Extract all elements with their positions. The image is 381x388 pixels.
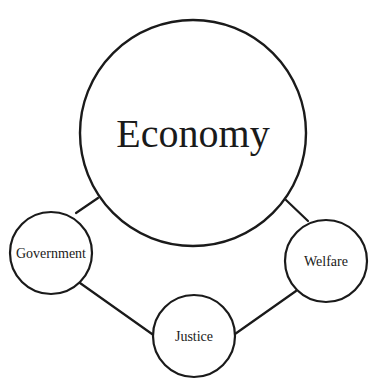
government-label: Government <box>16 246 86 261</box>
edge-economy-government <box>76 198 98 213</box>
edge-government-justice <box>80 283 152 334</box>
node-welfare: Welfare <box>285 220 367 302</box>
edges <box>76 198 308 334</box>
edge-economy-welfare <box>286 200 308 221</box>
edge-justice-welfare <box>235 291 296 334</box>
welfare-label: Welfare <box>304 254 348 269</box>
diagram-canvas: Economy Government Welfare Justice <box>0 0 381 388</box>
node-economy: Economy <box>80 20 306 246</box>
justice-label: Justice <box>175 329 213 344</box>
node-government: Government <box>10 212 92 294</box>
economy-label: Economy <box>116 111 269 156</box>
node-justice: Justice <box>153 295 235 377</box>
